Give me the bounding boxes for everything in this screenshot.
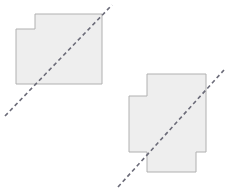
figure-svg: [0, 0, 229, 193]
figure-canvas: [0, 0, 229, 193]
